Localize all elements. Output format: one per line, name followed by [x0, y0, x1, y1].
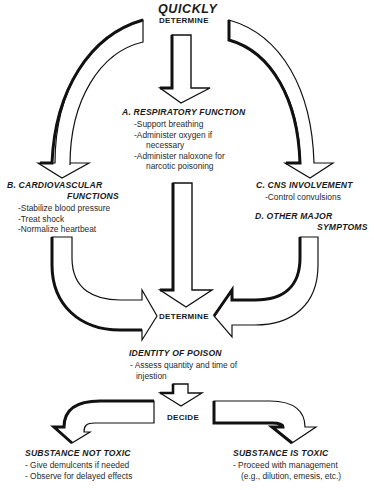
arrow-down-top — [160, 35, 210, 103]
respiratory-item: -Administer naloxone for — [134, 151, 225, 162]
identity-items: - Assess quantity and time of injestion — [130, 360, 237, 381]
cns-item: -Control convulsions — [265, 192, 341, 203]
toxic-item: - Proceed with management — [233, 460, 341, 471]
not-toxic-items: - Give demulcents if needed - Observe fo… — [25, 460, 132, 481]
center-determine: DETERMINE — [159, 312, 209, 321]
toxic-items: - Proceed with management (e.g., dilutio… — [233, 460, 341, 481]
arrow-uturn-left — [52, 237, 157, 340]
decide-label: DECIDE — [167, 413, 199, 422]
arrow-down-center — [160, 183, 212, 307]
identity-item: injestion — [130, 371, 237, 382]
arrow-split-left — [54, 401, 154, 443]
respiratory-item: necessary — [134, 140, 225, 151]
other-header-line1: D. OTHER MAJOR — [255, 212, 332, 222]
not-toxic-item: - Give demulcents if needed — [25, 460, 132, 471]
toxic-header: SUBSTANCE IS TOXIC — [233, 449, 328, 459]
cardiovascular-item: -Stabilize blood pressure — [18, 203, 110, 214]
title-determine: DETERMINE — [159, 16, 209, 25]
not-toxic-header: SUBSTANCE NOT TOXIC — [25, 449, 131, 459]
toxic-item: (e.g., dilution, emesis, etc.) — [233, 471, 341, 482]
respiratory-item: narcotic poisoning — [134, 161, 225, 172]
cns-header: C. CNS INVOLVEMENT — [256, 181, 353, 191]
cardiovascular-header-line2: FUNCTIONS — [67, 192, 119, 202]
arrow-down-decide — [160, 384, 202, 406]
not-toxic-item: - Observe for delayed effects — [25, 471, 132, 482]
arrow-uturn-right — [214, 237, 318, 337]
cardiovascular-item: -Normalize heartbeat — [18, 224, 110, 235]
cardiovascular-items: -Stabilize blood pressure -Treat shock -… — [18, 203, 110, 235]
respiratory-items: -Support breathing -Administer oxygen if… — [134, 119, 225, 172]
respiratory-item: -Administer oxygen if — [134, 130, 225, 141]
identity-item: - Assess quantity and time of — [130, 360, 237, 371]
cns-items: -Control convulsions — [265, 192, 341, 203]
respiratory-item: -Support breathing — [134, 119, 225, 130]
arrow-curve-right — [229, 20, 333, 178]
cardiovascular-item: -Treat shock — [18, 214, 110, 225]
other-header-line2: SYMPTOMS — [317, 223, 368, 233]
respiratory-header: A. RESPIRATORY FUNCTION — [122, 108, 245, 118]
identity-header: IDENTITY OF POISON — [129, 349, 222, 359]
title-quickly: QUICKLY — [158, 2, 218, 16]
cardiovascular-header-line1: B. CARDIOVASCULAR — [7, 181, 102, 191]
